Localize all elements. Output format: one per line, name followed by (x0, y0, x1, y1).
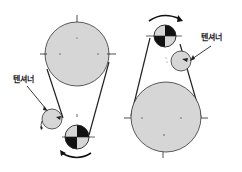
right-large-pulley (131, 82, 201, 152)
left-rotation-arrow (62, 153, 91, 158)
left-tensioner-label: 텐셔너 (13, 73, 34, 84)
right-tensioner-label: 텐셔너 (201, 31, 222, 42)
right-drive-pulley (146, 25, 182, 47)
left-tensioner-leader (27, 86, 46, 109)
left-large-pulley (45, 22, 109, 86)
right-tensioner-leader (192, 46, 211, 59)
right-rotation-arrow (149, 15, 180, 21)
left-assembly (27, 15, 116, 158)
right-tensioner-pulley (171, 51, 191, 71)
belt-drive-diagram (0, 0, 242, 172)
right-assembly (124, 15, 211, 158)
